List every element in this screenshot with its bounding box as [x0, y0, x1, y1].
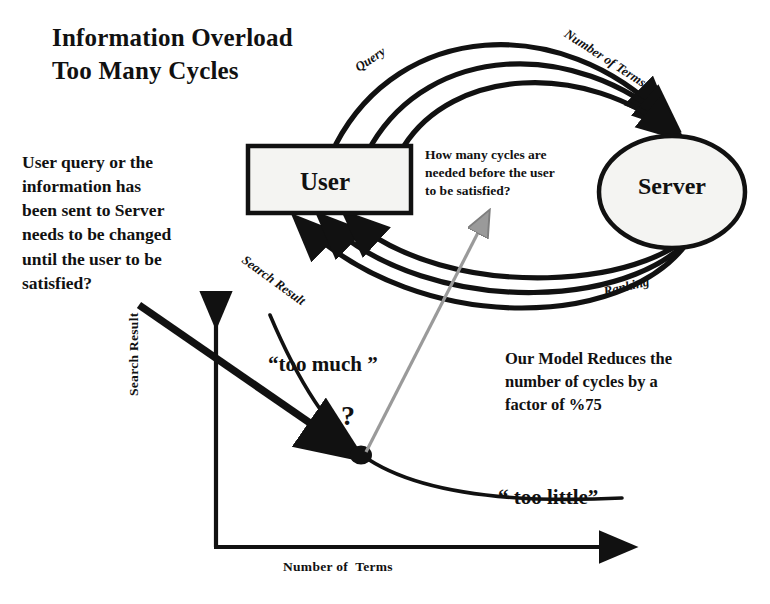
annotation-optimum-question-mark: ? [341, 399, 355, 433]
diagram-canvas: Information Overload Too Many Cycles Use… [0, 0, 770, 604]
model-claim-note: Our Model Reduces the number of cycles b… [505, 348, 672, 416]
cycles-question-arrow [366, 215, 487, 452]
page-title-line-2: Too Many Cycles [52, 57, 239, 84]
annotation-too-little: “ too little” [498, 485, 598, 511]
diagram-graphics [0, 0, 770, 604]
left-note-arrow [139, 305, 352, 452]
user-node-label: User [300, 167, 350, 198]
page-title-line-1: Information Overload [52, 24, 293, 51]
chart-y-axis-label: Search Result [126, 312, 142, 396]
left-question-note: User query or the information has been s… [22, 150, 171, 295]
arc-group-user-to-server [336, 45, 676, 146]
cycles-question-note: How many cycles are needed before the us… [425, 146, 555, 199]
page-title: Information Overload Too Many Cycles [52, 22, 293, 87]
annotation-too-much: “too much ” [268, 352, 378, 378]
server-node-label: Server [638, 172, 706, 201]
chart-x-axis-label: Number of Terms [283, 559, 393, 575]
